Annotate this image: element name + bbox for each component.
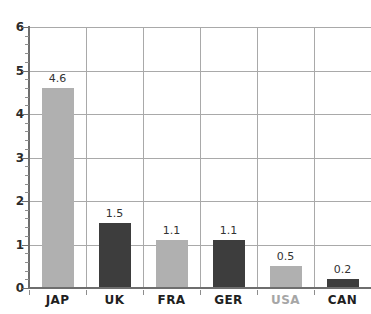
gridline-vertical — [314, 27, 315, 288]
y-axis-major-tick — [22, 158, 29, 159]
y-axis-major-tick — [22, 71, 29, 72]
y-axis-tick-label: 1 — [4, 239, 24, 251]
y-axis-minor-tick — [25, 123, 29, 124]
y-axis-minor-tick — [25, 192, 29, 193]
bar-value-label: 1.1 — [209, 225, 249, 236]
bar-value-label: 1.5 — [95, 208, 135, 219]
y-axis-minor-tick — [25, 262, 29, 263]
y-axis-tick-label: 2 — [4, 195, 24, 207]
y-axis-minor-tick — [25, 236, 29, 237]
x-axis-category-label: JAP — [30, 294, 86, 306]
x-axis-spine — [28, 287, 371, 289]
y-axis-minor-tick — [25, 218, 29, 219]
y-axis-major-tick — [22, 201, 29, 202]
x-axis-category-label: UK — [87, 294, 143, 306]
x-axis-category-label: USA — [258, 294, 314, 306]
y-axis-major-tick — [22, 114, 29, 115]
x-axis-category-label: FRA — [144, 294, 200, 306]
y-axis-major-tick — [22, 288, 29, 289]
y-axis-minor-tick — [25, 79, 29, 80]
y-axis-minor-tick — [25, 105, 29, 106]
y-axis-minor-tick — [25, 53, 29, 54]
y-axis-tick-labels: 0123456 — [0, 0, 24, 314]
y-axis-major-tick — [22, 27, 29, 28]
bar-value-label: 0.2 — [323, 264, 363, 275]
y-axis-minor-tick — [25, 97, 29, 98]
y-axis-minor-tick — [25, 184, 29, 185]
y-axis-minor-tick — [25, 253, 29, 254]
y-axis-tick-label: 4 — [4, 108, 24, 120]
y-axis-minor-tick — [25, 36, 29, 37]
y-axis-minor-tick — [25, 140, 29, 141]
bar — [99, 223, 131, 288]
gridline-vertical — [143, 27, 144, 288]
bar-value-label: 4.6 — [38, 73, 78, 84]
y-axis-tick-label: 3 — [4, 152, 24, 164]
bar — [270, 266, 302, 288]
y-axis-minor-tick — [25, 88, 29, 89]
y-axis-minor-tick — [25, 166, 29, 167]
bar — [213, 240, 245, 288]
bar — [156, 240, 188, 288]
bar-chart: 0123456 4.61.51.11.10.50.2 JAPUKFRAGERUS… — [0, 0, 371, 314]
y-axis-minor-tick — [25, 227, 29, 228]
x-axis-category-label: GER — [201, 294, 257, 306]
bar — [42, 88, 74, 288]
y-axis-tick-label: 0 — [4, 282, 24, 294]
y-axis-minor-tick — [25, 175, 29, 176]
gridline-vertical — [257, 27, 258, 288]
y-axis-major-tick — [22, 245, 29, 246]
y-axis-minor-tick — [25, 271, 29, 272]
y-axis-minor-tick — [25, 44, 29, 45]
y-axis-minor-tick — [25, 279, 29, 280]
y-axis-tick-label: 5 — [4, 65, 24, 77]
x-axis-category-label: CAN — [315, 294, 371, 306]
y-axis-minor-tick — [25, 62, 29, 63]
bar-value-label: 1.1 — [152, 225, 192, 236]
bar-value-label: 0.5 — [266, 251, 306, 262]
y-axis-tick-label: 6 — [4, 21, 24, 33]
gridline-vertical — [200, 27, 201, 288]
plot-area — [29, 27, 371, 288]
gridline-vertical — [86, 27, 87, 288]
y-axis-minor-tick — [25, 131, 29, 132]
y-axis-minor-tick — [25, 210, 29, 211]
y-axis-minor-tick — [25, 149, 29, 150]
